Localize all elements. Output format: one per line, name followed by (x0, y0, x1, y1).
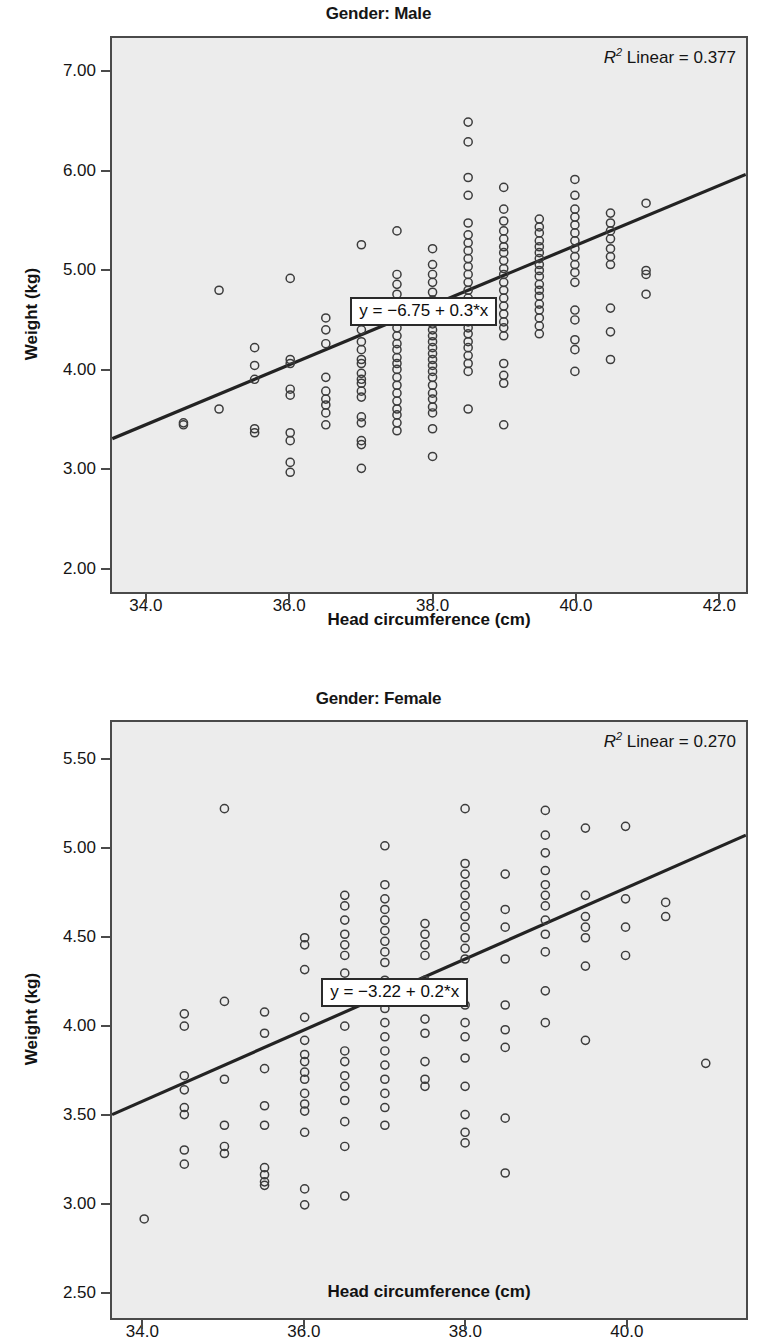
scatter-point (428, 288, 436, 296)
scatter-point (535, 330, 543, 338)
scatter-point (381, 948, 389, 956)
scatter-point (461, 1128, 469, 1136)
scatter-point (662, 898, 670, 906)
y-tick-mark (101, 847, 110, 849)
scatter-point (322, 409, 330, 417)
scatter-point (500, 183, 508, 191)
scatter-point (571, 253, 579, 261)
x-tick-mark (432, 594, 434, 603)
scatter-point (500, 359, 508, 367)
scatter-point (500, 371, 508, 379)
scatter-point (642, 199, 650, 207)
scatter-point (581, 891, 589, 899)
scatter-point (541, 930, 549, 938)
plot-area-male: R2 Linear = 0.377 y = −6.75 + 0.3*x (110, 36, 748, 594)
scatter-point (541, 948, 549, 956)
scatter-point (381, 958, 389, 966)
x-tick-mark (303, 1320, 305, 1329)
panel-title-male: Gender: Male (0, 4, 757, 24)
scatter-point (393, 397, 401, 405)
scatter-point (606, 253, 614, 261)
scatter-point (180, 1072, 188, 1080)
y-tick-mark (101, 936, 110, 938)
scatter-point (428, 245, 436, 253)
scatter-point (606, 328, 614, 336)
scatter-point (260, 1121, 268, 1129)
x-tick-mark (575, 594, 577, 603)
x-axis-title-male: Head circumference (cm) (110, 610, 748, 630)
x-axis-title-female: Head circumference (cm) (110, 1282, 748, 1302)
scatter-point (357, 326, 365, 334)
y-tick-label: 5.00 (4, 838, 96, 858)
scatter-point (464, 262, 472, 270)
scatter-point (341, 930, 349, 938)
scatter-point (500, 227, 508, 235)
scatter-point (541, 902, 549, 910)
scatter-point (286, 429, 294, 437)
y-tick-label: 7.00 (4, 61, 96, 81)
scatter-point (461, 1139, 469, 1147)
scatter-point (428, 395, 436, 403)
scatter-point (461, 891, 469, 899)
scatter-point (541, 866, 549, 874)
scatter-point (541, 831, 549, 839)
scatter-point (428, 270, 436, 278)
scatter-point (341, 891, 349, 899)
scatter-point (180, 1010, 188, 1018)
scatter-point (461, 902, 469, 910)
r2-value-label: Linear = 0.270 (627, 732, 736, 751)
scatter-point (500, 205, 508, 213)
scatter-point (541, 987, 549, 995)
scatter-point (428, 409, 436, 417)
scatter-point (140, 1215, 148, 1223)
scatter-point (421, 951, 429, 959)
scatter-point (541, 881, 549, 889)
scatter-point (381, 1089, 389, 1097)
scatter-point (464, 255, 472, 263)
scatter-point (464, 330, 472, 338)
y-tick-mark (101, 468, 110, 470)
scatter-point (428, 452, 436, 460)
scatter-point (381, 916, 389, 924)
scatter-point (341, 902, 349, 910)
y-tick-mark (101, 568, 110, 570)
scatter-point (428, 278, 436, 286)
scatter-point (260, 1102, 268, 1110)
scatter-point (501, 870, 509, 878)
y-tick-label: 3.50 (4, 1105, 96, 1125)
scatter-point (220, 1121, 228, 1129)
y-tick-mark (101, 1203, 110, 1205)
scatter-point (621, 951, 629, 959)
scatter-point (220, 1075, 228, 1083)
scatter-point (461, 912, 469, 920)
scatter-point (341, 916, 349, 924)
scatter-point (581, 824, 589, 832)
scatter-point (251, 344, 259, 352)
scatter-point (215, 286, 223, 294)
scatter-point (381, 842, 389, 850)
scatter-point (341, 1047, 349, 1055)
scatter-point (541, 806, 549, 814)
scatter-point (461, 944, 469, 952)
scatter-point (464, 278, 472, 286)
scatter-point (581, 1036, 589, 1044)
scatter-point (301, 1013, 309, 1021)
scatter-point (381, 1075, 389, 1083)
scatter-point (421, 1057, 429, 1065)
panel-female: Gender: Female R2 Linear = 0.270 y = −3.… (0, 660, 757, 1339)
scatter-point (571, 268, 579, 276)
scatter-point (461, 870, 469, 878)
scatter-point (461, 1033, 469, 1041)
scatter-point (464, 359, 472, 367)
scatter-point (381, 927, 389, 935)
scatter-point (501, 1114, 509, 1122)
scatter-point (341, 969, 349, 977)
scatter-point (220, 997, 228, 1005)
scatter-point (260, 1029, 268, 1037)
y-tick-label: 4.00 (4, 1016, 96, 1036)
x-tick-mark (145, 594, 147, 603)
scatter-point (357, 241, 365, 249)
scatter-point (500, 324, 508, 332)
scatter-point (606, 219, 614, 227)
y-tick-mark (101, 758, 110, 760)
